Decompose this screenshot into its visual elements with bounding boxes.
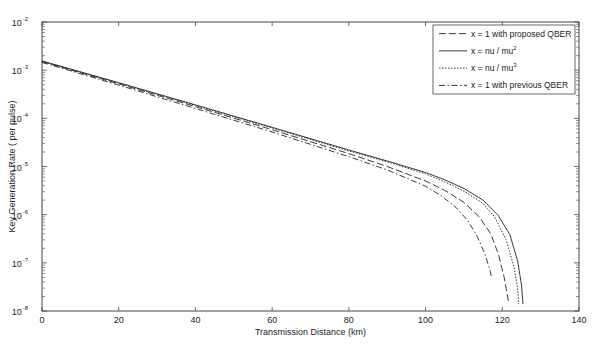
x-tick-label: 40 <box>190 315 200 325</box>
y-tick-label: 10-2 <box>12 16 29 28</box>
x-tick-label: 20 <box>114 315 124 325</box>
y-tick-label: 10-3 <box>12 64 29 76</box>
legend-entry-label: x = 1 with proposed QBER <box>471 29 571 39</box>
x-axis-label: Transmission Distance (km) <box>255 327 366 337</box>
y-axis-label: Key Generation Rate ( per pulse) <box>7 100 17 232</box>
legend-entry-label: x = nu / mu2 <box>471 45 517 56</box>
x-tick-label: 60 <box>267 315 277 325</box>
x-tick-label: 80 <box>344 315 354 325</box>
x-tick-label: 100 <box>418 315 433 325</box>
y-tick-label: 10-8 <box>12 305 29 317</box>
x-tick-label: 140 <box>571 315 586 325</box>
key-rate-chart: 020406080100120140 10-810-710-610-510-41… <box>0 0 595 344</box>
legend-entry-label: x = 1 with previous QBER <box>471 80 568 90</box>
x-tick-label: 0 <box>39 315 44 325</box>
y-tick-label: 10-7 <box>12 257 29 269</box>
x-tick-label: 120 <box>495 315 510 325</box>
legend: x = 1 with proposed QBERx = nu / mu2x = … <box>433 25 575 94</box>
legend-entry-label: x = nu / mu3 <box>471 62 517 73</box>
